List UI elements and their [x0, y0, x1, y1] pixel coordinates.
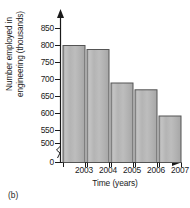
bar-2006[interactable]	[135, 90, 157, 163]
bar-2005[interactable]	[111, 83, 133, 163]
y-axis-arrow-icon	[57, 9, 64, 18]
bar-2004[interactable]	[87, 50, 109, 163]
x-tick-label-2005: 2005	[121, 166, 143, 175]
bar-group	[63, 46, 181, 163]
figure-container: Number employed in engineering (thousand…	[0, 0, 190, 208]
bar-2003[interactable]	[63, 46, 85, 163]
x-axis-title: Time (years)	[55, 178, 175, 188]
x-axis-tick-labels: 2003 2004 2005 2006 2007	[60, 166, 170, 177]
y-axis-ticks	[55, 29, 61, 163]
x-tick-label-2006: 2006	[145, 166, 167, 175]
x-tick-label-2004: 2004	[97, 166, 119, 175]
x-tick-label-2003: 2003	[73, 166, 95, 175]
bar-2007[interactable]	[159, 116, 181, 163]
figure-caption: (b)	[8, 190, 18, 200]
x-tick-label-2007: 2007	[169, 166, 190, 175]
